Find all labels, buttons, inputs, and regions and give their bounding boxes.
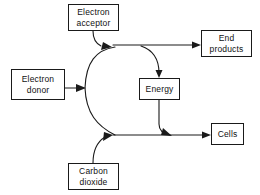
node-electron-acceptor-line-2: acceptor: [77, 18, 111, 29]
arrowhead-donor: [76, 84, 86, 92]
node-electron-acceptor[interactable]: Electron acceptor: [68, 4, 119, 31]
arrowhead-energy: [156, 70, 163, 78]
node-end-products-line-2: products: [210, 44, 244, 55]
node-electron-acceptor-line-1: Electron: [77, 7, 109, 18]
node-end-products[interactable]: End products: [201, 30, 252, 57]
node-carbon-dioxide[interactable]: Carbon dioxide: [68, 163, 119, 190]
arrowhead-end-products: [192, 42, 201, 49]
node-cells-line-1: Cells: [218, 129, 238, 140]
diagram-canvas: Electron acceptor End products Electron …: [0, 0, 260, 195]
node-energy[interactable]: Energy: [139, 78, 180, 100]
edge-central-bracket: [85, 47, 115, 135]
node-electron-donor[interactable]: Electron donor: [11, 69, 65, 100]
node-end-products-line-1: End: [219, 33, 235, 44]
node-carbon-dioxide-line-1: Carbon: [79, 166, 108, 177]
node-electron-donor-line-2: donor: [27, 85, 50, 96]
edge-carbon-dioxide-to-junction: [93, 137, 105, 163]
arrowhead-cells: [202, 132, 211, 139]
arrowhead-energy-out: [161, 128, 172, 136]
edge-acceptor-to-junction: [93, 31, 101, 46]
node-electron-donor-line-1: Electron: [22, 74, 54, 85]
node-energy-line-1: Energy: [146, 84, 174, 95]
edge-junction-to-energy: [141, 46, 159, 73]
node-carbon-dioxide-line-2: dioxide: [80, 177, 108, 188]
node-cells[interactable]: Cells: [211, 123, 244, 145]
